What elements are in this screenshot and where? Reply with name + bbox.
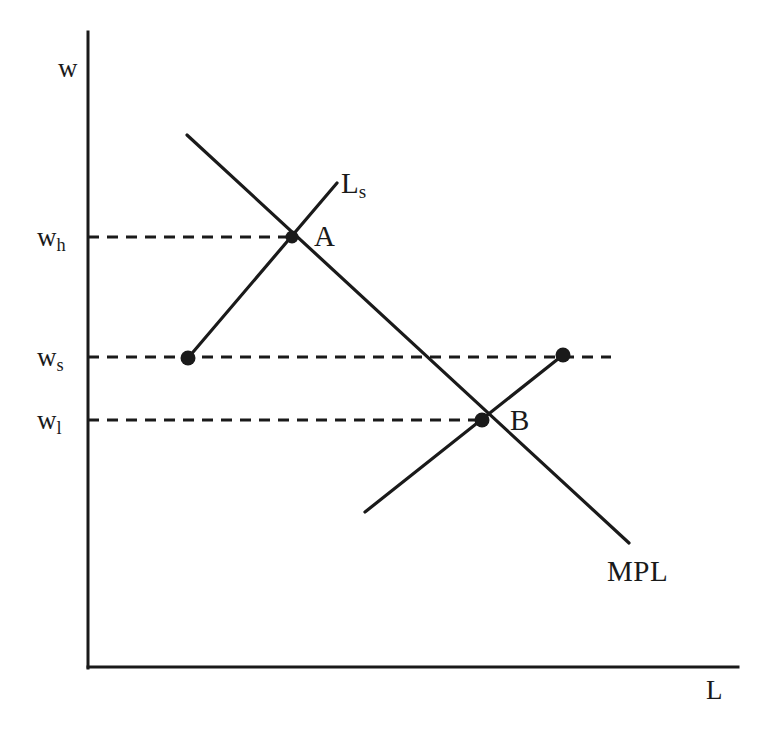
point-label-a: A xyxy=(314,222,335,251)
labour-market-figure: w L wh ws wl Ls MPL A B xyxy=(0,0,773,732)
x-axis-label: L xyxy=(706,677,723,704)
marker-point-b xyxy=(475,413,490,428)
curve-ls-supply-upper xyxy=(188,183,337,358)
wage-label-high: wh xyxy=(37,224,66,251)
marker-point-a xyxy=(286,231,299,244)
curve-label-supply-sub: s xyxy=(359,181,366,202)
wage-label-standard-sub: s xyxy=(57,355,64,375)
wage-label-low: wl xyxy=(37,407,62,434)
curve-label-demand: MPL xyxy=(607,557,668,586)
y-axis-label: w xyxy=(58,55,78,82)
wage-label-high-sub: h xyxy=(57,235,66,255)
diagram-canvas xyxy=(0,0,773,732)
wage-label-standard-base: w xyxy=(37,342,57,372)
wage-label-high-base: w xyxy=(37,222,57,252)
wage-label-low-base: w xyxy=(37,405,57,435)
curve-mpl-demand xyxy=(187,135,629,543)
marker-supply-lower-endpoint xyxy=(556,348,571,363)
curve-label-supply-base: L xyxy=(341,167,359,199)
marker-supply-upper-endpoint xyxy=(181,351,196,366)
point-label-b: B xyxy=(510,406,529,435)
wage-label-low-sub: l xyxy=(57,418,62,438)
curve-ls-supply-lower xyxy=(365,355,563,512)
curve-label-supply: Ls xyxy=(341,169,366,198)
wage-label-standard: ws xyxy=(37,344,64,371)
